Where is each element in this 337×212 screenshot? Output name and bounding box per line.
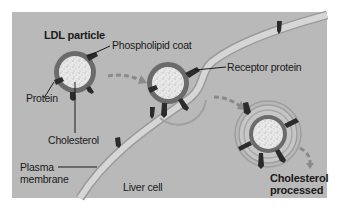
label-liver-cell: Liver cell xyxy=(123,181,162,193)
label-ldl-particle: LDL particle xyxy=(44,29,105,41)
label-receptor-protein: Receptor protein xyxy=(227,61,301,73)
label-phospholipid-coat: Phospholipid coat xyxy=(112,39,192,51)
label-plasma-membrane: Plasma membrane xyxy=(20,161,69,185)
label-cholesterol-processed: Cholesterol processed xyxy=(270,172,328,196)
ldl-endocytosis-diagram: LDL particle Phospholipid coat Protein C… xyxy=(0,0,337,212)
receptor-protein-icon xyxy=(258,153,264,169)
label-protein: Protein xyxy=(26,92,58,104)
label-cholesterol: Cholesterol xyxy=(48,134,99,146)
receptor-protein-icon xyxy=(161,103,167,118)
